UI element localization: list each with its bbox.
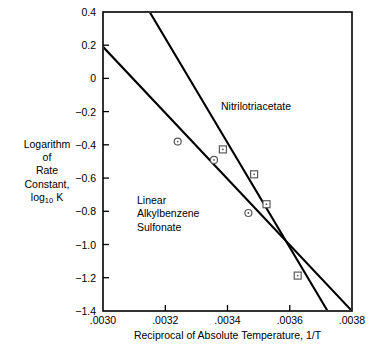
fit-line-nitrilotriacetate bbox=[150, 12, 328, 311]
y-axis-title: LogarithmofRateConstant,log10 K bbox=[4, 138, 90, 205]
y-axis-title-line: Constant, bbox=[25, 178, 70, 190]
plot-frame-rect bbox=[103, 12, 352, 311]
chart-figure: 0.4 0.2 0 −0.2 −0.4 −0.6 −0.8 −1.0 −1.2 … bbox=[0, 0, 375, 356]
y-tick-label: −0.2 bbox=[58, 106, 96, 117]
series-annotation-nitrilotriacetate: Nitrilotriacetate bbox=[221, 100, 291, 113]
axis-frame bbox=[103, 12, 352, 311]
y-axis-title-tail: K bbox=[56, 191, 63, 203]
x-tick-label: .0034 bbox=[214, 315, 240, 326]
y-axis-title-log: log bbox=[31, 191, 45, 203]
x-tick-label: .0036 bbox=[277, 315, 303, 326]
x-tick-label: .0032 bbox=[152, 315, 178, 326]
y-tick-label: 0.4 bbox=[58, 7, 96, 18]
x-tick-label: .0030 bbox=[90, 315, 116, 326]
x-axis-ticks bbox=[165, 305, 289, 311]
series-annotation-linear-alkylbenzene-sulfonate: Linear Alkylbenzene Sulfonate bbox=[137, 194, 199, 234]
y-axis-title-line: of bbox=[43, 151, 52, 163]
clipped-caption-fragment bbox=[0, 347, 375, 356]
fit-line-linear-alkylbenzene-sulfonate bbox=[103, 47, 352, 311]
x-tick-label: .0038 bbox=[339, 315, 365, 326]
y-tick-label: −1.0 bbox=[58, 239, 96, 250]
y-tick-label: −1.2 bbox=[58, 272, 96, 283]
y-axis-title-line: Logarithm bbox=[24, 138, 71, 150]
x-axis-title: Reciprocal of Absolute Temperature, 1/T bbox=[103, 329, 352, 341]
y-tick-label: 0.2 bbox=[58, 40, 96, 51]
y-axis-ticks bbox=[103, 45, 109, 278]
y-tick-label: −0.8 bbox=[58, 206, 96, 217]
y-axis-title-line: Rate bbox=[36, 164, 58, 176]
y-tick-label: 0 bbox=[58, 73, 96, 84]
y-axis-title-subscript: 10 bbox=[45, 196, 53, 205]
